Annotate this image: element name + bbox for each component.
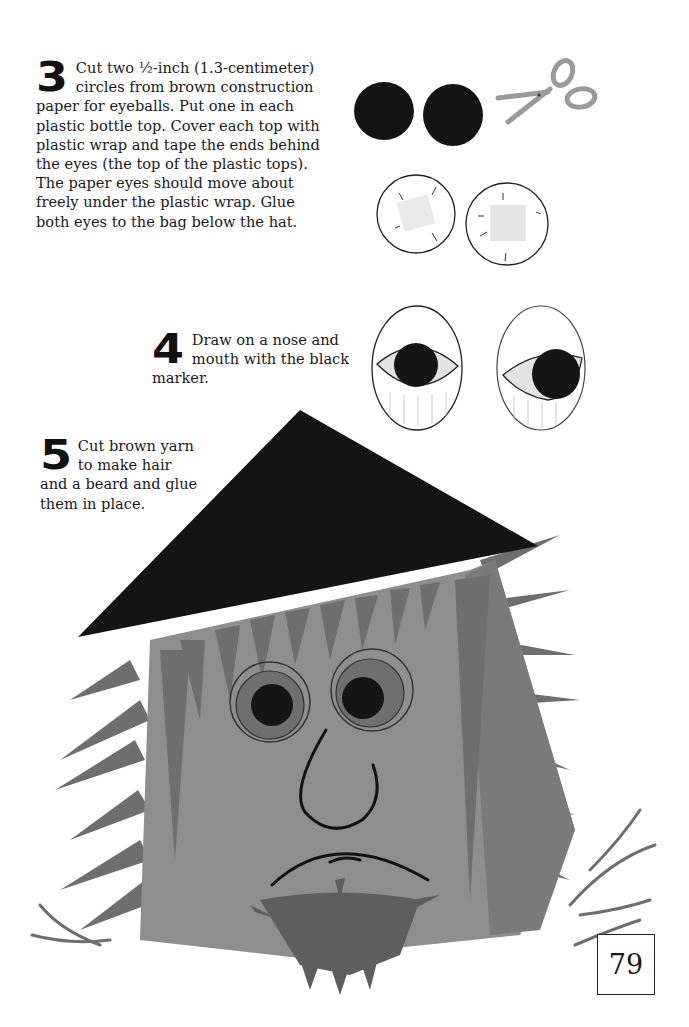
finished-eyes-illustration (372, 306, 585, 430)
paper-bag-puppet-illustration (32, 410, 655, 995)
page-number-text: 79 (609, 949, 643, 980)
page-number: 79 (597, 934, 655, 995)
wrapped-bottle-tops-illustration (377, 175, 548, 265)
illustrations (0, 0, 689, 1027)
scissors-icon (498, 57, 596, 122)
paper-circles-illustration (354, 82, 483, 146)
